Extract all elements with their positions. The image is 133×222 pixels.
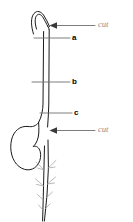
arrowhead-cut-bottom [50,127,58,134]
diagram-canvas: cut a b c cut [0,0,133,222]
label-a: a [72,34,76,42]
label-cut-top: cut [98,20,108,29]
cotyledon-shape [11,123,41,170]
seedling-diagram [0,0,133,222]
plumule-hook-icon [32,12,50,34]
label-c: c [74,109,78,117]
label-cut-bottom: cut [98,125,108,134]
stem-shape [39,30,50,127]
arrowhead-cut-top [50,22,58,29]
label-b: b [72,78,77,86]
annotation-arrowheads [50,22,58,134]
